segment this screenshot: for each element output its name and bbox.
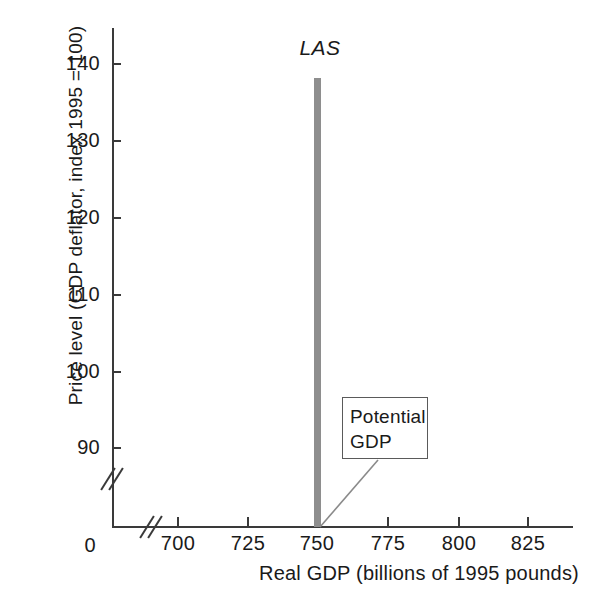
las-curve-label: LAS bbox=[280, 36, 360, 60]
y-tick-label-90: 90 bbox=[54, 437, 100, 457]
callout-line-1: Potential bbox=[350, 404, 427, 429]
y-tick-130 bbox=[112, 140, 121, 142]
x-tick-700 bbox=[177, 517, 179, 527]
y-tick-140 bbox=[112, 63, 121, 65]
x-tick-label-775: 775 bbox=[353, 532, 423, 554]
y-tick-100 bbox=[112, 371, 121, 373]
y-axis-title: Price level (GDP deflator, index 1995 = … bbox=[65, 26, 86, 406]
origin-label: 0 bbox=[75, 534, 105, 556]
y-tick-120 bbox=[112, 217, 121, 219]
x-axis-line bbox=[112, 526, 573, 528]
y-tick-90 bbox=[112, 447, 121, 449]
x-tick-label-825: 825 bbox=[493, 532, 563, 554]
x-axis-title: Real GDP (billions of 1995 pounds) bbox=[249, 562, 589, 584]
potential-gdp-callout: Potential GDP bbox=[342, 397, 428, 459]
y-axis-line bbox=[112, 28, 114, 527]
las-curve bbox=[314, 78, 321, 527]
x-axis-break-icon bbox=[139, 514, 165, 540]
las-potential-gdp-chart: 140 130 120 110 100 90 700 725 750 775 8… bbox=[0, 0, 615, 604]
callout-line-2: GDP bbox=[350, 429, 427, 454]
x-tick-label-725: 725 bbox=[213, 532, 283, 554]
x-tick-775 bbox=[387, 517, 389, 527]
x-tick-825 bbox=[527, 517, 529, 527]
x-tick-label-800: 800 bbox=[424, 532, 494, 554]
y-tick-110 bbox=[112, 294, 121, 296]
x-tick-800 bbox=[458, 517, 460, 527]
y-axis-break-icon bbox=[100, 466, 126, 492]
x-tick-label-750: 750 bbox=[282, 532, 352, 554]
x-tick-725 bbox=[247, 517, 249, 527]
